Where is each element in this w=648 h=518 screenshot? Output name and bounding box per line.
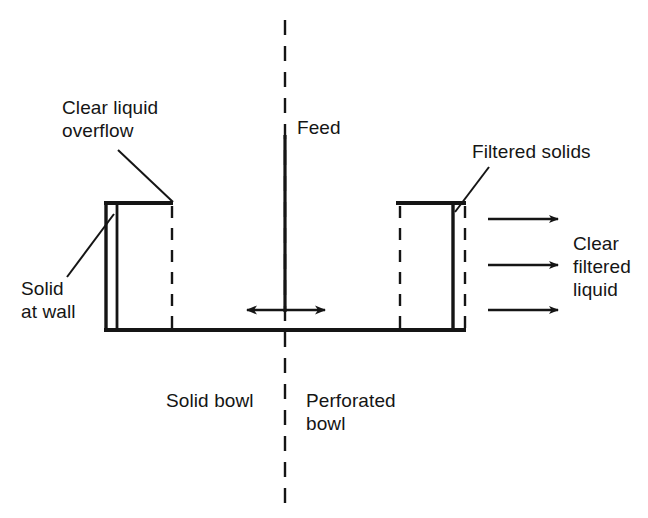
diagram-canvas (0, 0, 648, 518)
leader-filtered-solids (455, 167, 489, 212)
label-solid-bowl: Solid bowl (166, 389, 254, 412)
label-filtered-solids: Filtered solids (472, 140, 591, 163)
leader-clear-liquid-overflow (118, 150, 173, 202)
filtrate-outflow-arrows (488, 219, 558, 310)
solid-bowl-wall-left (104, 203, 173, 330)
label-clear-filtered-liquid: Clear filtered liquid (573, 232, 631, 301)
label-feed: Feed (297, 116, 341, 139)
label-perforated-bowl: Perforated bowl (306, 389, 396, 435)
leader-lines (67, 150, 489, 277)
perforated-bowl-wall-right (396, 203, 466, 330)
label-clear-liquid-overflow: Clear liquid overflow (62, 96, 158, 142)
label-solid-at-wall: Solid at wall (21, 277, 76, 323)
centrifuge-diagram: Clear liquid overflow Solid at wall Feed… (0, 0, 648, 518)
